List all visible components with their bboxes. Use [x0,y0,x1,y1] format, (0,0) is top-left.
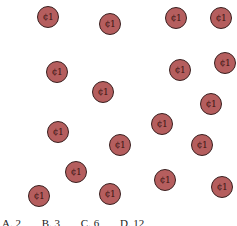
coin-icon: ¢1 [154,169,176,191]
coin-icon: ¢1 [211,176,233,198]
option-a[interactable]: A. 2 [2,217,21,226]
coin-icon: ¢1 [214,52,236,74]
coin-icon: ¢1 [99,13,121,35]
coin-icon: ¢1 [191,134,213,156]
coin-icon: ¢1 [92,81,114,103]
option-b[interactable]: B. 3 [42,217,60,226]
option-c[interactable]: C. 6 [81,217,99,226]
coin-icon: ¢1 [210,7,232,29]
coin-icon: ¢1 [46,61,68,83]
coin-icon: ¢1 [99,183,121,205]
option-d[interactable]: D. 12 [120,217,144,226]
coin-icon: ¢1 [151,113,173,135]
coin-icon: ¢1 [37,6,59,28]
coin-icon: ¢1 [65,161,87,183]
coin-icon: ¢1 [28,185,50,207]
coin-icon: ¢1 [109,134,131,156]
coin-icon: ¢1 [165,7,187,29]
answer-options: A. 2 B. 3 C. 6 D. 12 [2,217,162,226]
coin-icon: ¢1 [200,93,222,115]
coin-icon: ¢1 [47,121,69,143]
coin-icon: ¢1 [169,59,191,81]
